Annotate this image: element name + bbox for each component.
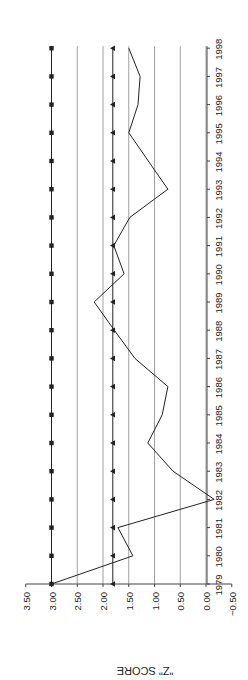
square-marker: [49, 243, 53, 247]
square-marker: [49, 497, 53, 501]
value-tick-label: 0.50: [175, 592, 186, 611]
z-score-chart: 3.503.002.502.001.501.000.500.00−0.50197…: [0, 0, 248, 680]
square-marker: [49, 441, 53, 445]
category-tick-label: 1982: [213, 490, 224, 511]
data-series: [49, 45, 214, 586]
series-line: [52, 48, 215, 584]
category-tick-label: 1991: [213, 236, 224, 257]
value-tick-label: 2.00: [98, 592, 109, 611]
square-marker: [49, 187, 53, 191]
square-marker: [49, 554, 53, 558]
category-tick-label: 1981: [213, 518, 224, 539]
gridlines: [52, 46, 207, 584]
category-tick-label: 1990: [213, 264, 224, 285]
y-axis-label: "Z" SCORE: [117, 665, 174, 677]
square-marker: [49, 131, 53, 135]
category-tick-label: 1979: [213, 574, 224, 595]
category-tick-label: 1996: [213, 95, 224, 116]
value-tick-label: 1.00: [150, 592, 161, 611]
square-marker: [49, 328, 53, 332]
square-marker: [49, 469, 53, 473]
square-marker: [49, 159, 53, 163]
square-marker: [49, 74, 53, 78]
category-tick-label: 1987: [213, 349, 224, 370]
category-tick-label: 1980: [213, 546, 224, 567]
square-marker: [49, 272, 53, 276]
value-tick-label: 2.50: [72, 592, 83, 611]
category-tick-label: 1988: [213, 321, 224, 342]
value-tick-label: −0.50: [227, 592, 238, 616]
value-tick-label: 0.00: [201, 592, 212, 611]
category-tick-label: 1985: [213, 405, 224, 426]
square-marker: [49, 46, 53, 50]
category-tick-label: 1984: [213, 433, 224, 454]
category-tick-label: 1983: [213, 462, 224, 483]
category-tick-label: 1995: [213, 123, 224, 144]
square-marker: [49, 215, 53, 219]
category-tick-label: 1986: [213, 377, 224, 398]
value-tick-label: 3.00: [47, 592, 58, 611]
category-tick-label: 1994: [213, 151, 224, 172]
square-marker: [49, 413, 53, 417]
square-marker: [49, 525, 53, 529]
square-marker: [49, 300, 53, 304]
value-tick-label: 1.50: [124, 592, 135, 611]
category-tick-label: 1989: [213, 292, 224, 313]
category-tick-label: 1997: [213, 67, 224, 88]
square-marker: [49, 384, 53, 388]
square-marker: [49, 582, 53, 586]
category-tick-label: 1992: [213, 208, 224, 229]
category-tick-label: 1993: [213, 180, 224, 201]
square-marker: [49, 356, 53, 360]
category-tick-label: 1998: [213, 39, 224, 60]
square-marker: [49, 102, 53, 106]
value-tick-label: 3.50: [21, 592, 32, 611]
